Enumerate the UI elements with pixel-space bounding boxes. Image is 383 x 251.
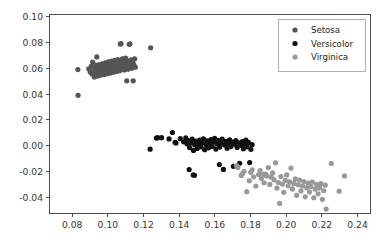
y-tick-label: 0.10 bbox=[23, 11, 44, 22]
legend-label-versicolor: Versicolor bbox=[311, 39, 354, 49]
data-point bbox=[267, 182, 272, 187]
data-point bbox=[132, 56, 137, 61]
data-point bbox=[311, 195, 316, 200]
y-tick-label: 0.02 bbox=[23, 114, 43, 125]
data-point bbox=[290, 186, 295, 191]
data-point bbox=[187, 167, 192, 172]
y-tick-label: 0.00 bbox=[23, 140, 44, 151]
data-point bbox=[288, 165, 293, 170]
data-point bbox=[250, 142, 255, 147]
data-point bbox=[270, 170, 275, 175]
data-point bbox=[217, 145, 222, 150]
data-point bbox=[166, 136, 171, 141]
x-tick-label: 0.18 bbox=[240, 219, 261, 230]
y-tick-label: 0.08 bbox=[23, 37, 44, 48]
data-point bbox=[235, 165, 240, 170]
data-point bbox=[294, 193, 299, 198]
data-point bbox=[271, 177, 276, 182]
data-point bbox=[303, 194, 308, 199]
data-point bbox=[251, 174, 256, 179]
x-tick-label: 0.12 bbox=[133, 219, 153, 230]
legend-marker-virginica bbox=[292, 54, 297, 59]
data-point bbox=[323, 183, 328, 188]
data-point bbox=[221, 167, 226, 172]
data-point bbox=[274, 185, 279, 190]
legend-marker-versicolor bbox=[292, 41, 297, 46]
data-point bbox=[284, 172, 289, 177]
data-point bbox=[248, 147, 253, 152]
data-point bbox=[316, 191, 321, 196]
data-point bbox=[118, 41, 123, 46]
data-point bbox=[148, 45, 153, 50]
x-tick-label: 0.24 bbox=[347, 219, 368, 230]
y-tick-label: -0.04 bbox=[19, 192, 43, 203]
data-point bbox=[131, 78, 136, 83]
data-point bbox=[173, 140, 178, 145]
data-point bbox=[148, 147, 153, 152]
data-point bbox=[247, 160, 252, 165]
data-point bbox=[217, 162, 222, 167]
x-tick-label: 0.22 bbox=[312, 219, 332, 230]
data-point bbox=[244, 189, 249, 194]
data-point bbox=[264, 173, 269, 178]
data-point bbox=[75, 67, 80, 72]
data-point bbox=[278, 174, 283, 179]
x-tick-label: 0.14 bbox=[169, 219, 190, 230]
data-point bbox=[298, 188, 303, 193]
legend: SetosaVersicolorVirginica bbox=[279, 20, 366, 72]
y-tick-label: -0.02 bbox=[19, 166, 43, 177]
data-point bbox=[281, 190, 286, 195]
data-point bbox=[127, 41, 132, 46]
scatter-plot: 0.080.100.120.140.160.180.200.220.24-0.0… bbox=[0, 0, 383, 251]
data-point bbox=[94, 54, 99, 59]
legend-label-setosa: Setosa bbox=[311, 25, 340, 35]
data-point bbox=[320, 197, 325, 202]
data-point bbox=[261, 180, 266, 185]
legend-marker-setosa bbox=[292, 27, 297, 32]
data-point bbox=[133, 65, 138, 70]
data-point bbox=[247, 178, 252, 183]
data-point bbox=[329, 161, 334, 166]
x-tick-label: 0.10 bbox=[98, 219, 119, 230]
data-point bbox=[273, 160, 278, 165]
data-point bbox=[337, 189, 342, 194]
x-tick-label: 0.08 bbox=[62, 219, 83, 230]
data-point bbox=[170, 130, 175, 135]
data-point bbox=[250, 167, 255, 172]
figure-canvas: 0.080.100.120.140.160.180.200.220.24-0.0… bbox=[0, 0, 383, 251]
data-point bbox=[266, 165, 271, 170]
data-point bbox=[242, 169, 247, 174]
data-point bbox=[324, 207, 329, 212]
data-point bbox=[321, 188, 326, 193]
data-point bbox=[342, 173, 347, 178]
data-point bbox=[159, 135, 164, 140]
data-point bbox=[307, 189, 312, 194]
x-tick-label: 0.16 bbox=[205, 219, 226, 230]
x-tick-label: 0.20 bbox=[276, 219, 297, 230]
data-point bbox=[277, 201, 282, 206]
y-tick-label: 0.04 bbox=[23, 89, 44, 100]
data-point bbox=[75, 93, 80, 98]
data-point bbox=[253, 183, 258, 188]
legend-label-virginica: Virginica bbox=[311, 52, 348, 62]
y-tick-label: 0.06 bbox=[23, 63, 44, 74]
data-point bbox=[192, 173, 197, 178]
data-point bbox=[124, 78, 129, 83]
